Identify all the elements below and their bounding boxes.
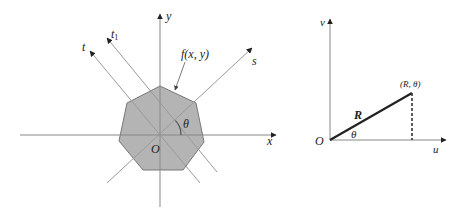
function-pointer-arrow [175, 62, 185, 90]
s-axis-label: s [252, 54, 257, 68]
point-label: (R, θ) [400, 79, 420, 89]
v-axis-label: v [320, 16, 325, 28]
angle-label: θ [183, 117, 189, 131]
u-axis-label: u [433, 143, 439, 155]
figure: y x O t t1 s f(x, y) θ v u O R θ (R, θ) [0, 0, 466, 216]
y-axis-label: y [165, 9, 172, 23]
angle-label-right: θ [351, 128, 357, 140]
origin-label-right: O [315, 134, 324, 148]
radius-line [330, 93, 412, 140]
left-diagram: y x O t t1 s f(x, y) θ [20, 9, 276, 207]
origin-label: O [151, 142, 160, 156]
right-diagram: v u O R θ (R, θ) [315, 16, 446, 155]
heptagon-shape [119, 86, 204, 170]
function-label: f(x, y) [181, 47, 209, 61]
x-axis-label: x [266, 134, 273, 148]
t-axis-label: t [82, 40, 86, 54]
radius-label: R [353, 108, 362, 122]
t1-axis-label: t1 [111, 27, 118, 42]
